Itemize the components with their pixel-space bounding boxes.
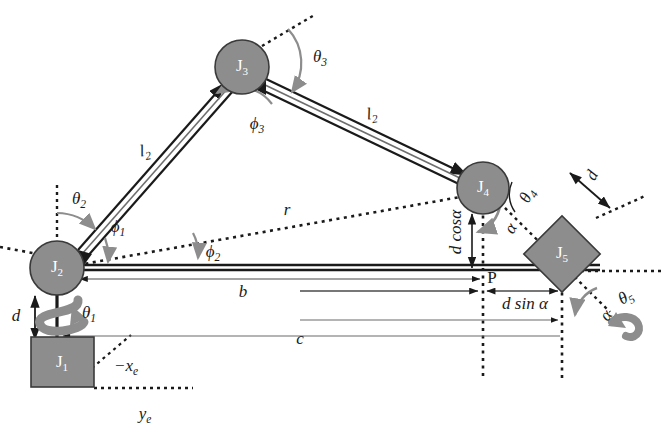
link-j3-j4-edge-c (260, 89, 461, 185)
label-theta4: θ4 (515, 184, 540, 206)
label-theta3: θ3 (313, 47, 327, 68)
label-r: r (284, 200, 291, 219)
link-j2-j3 (78, 83, 233, 265)
arc-phi1 (105, 238, 108, 262)
link-j3-j4 (255, 79, 467, 185)
label-phi1: ϕ1 (111, 217, 126, 238)
label-theta5: θ5 (614, 285, 637, 310)
label-theta2: θ2 (72, 189, 86, 210)
label-d-right: d (581, 167, 602, 184)
joint-j5[interactable]: J5 (524, 216, 600, 292)
joint-j4[interactable]: J4 (457, 162, 509, 214)
arc-alpha-j5 (575, 288, 597, 315)
diagram-canvas: J1 J2 J3 J4 J5 (0, 0, 667, 433)
label-b: b (239, 282, 248, 301)
dotted-radius-r (78, 196, 466, 265)
label-theta1: θ1 (82, 303, 96, 324)
label-phi3: ϕ3 (250, 114, 265, 135)
label-d-sin-alpha: d sin α (502, 294, 549, 313)
label-alpha-j4: α (500, 219, 521, 237)
link-j2-j3-edge-a (78, 83, 225, 250)
arc-phi2 (193, 233, 198, 258)
kinematic-chain-figure: J1 J2 J3 J4 J5 (0, 0, 667, 433)
arc-theta2 (57, 213, 95, 229)
link-j3-j4-edge-b (263, 84, 464, 180)
link-j2-j3-edge-b (82, 87, 229, 254)
label-phi2: ϕ2 (206, 242, 221, 263)
dotted-j5-upper (596, 196, 645, 218)
label-l2-upper: l2 (365, 103, 379, 125)
arc-theta3 (288, 29, 301, 92)
horizontal-beam (57, 265, 600, 270)
label-ye: ye (137, 404, 152, 425)
point-p-label: P (487, 268, 496, 287)
label-d-left: d (12, 306, 21, 325)
label-d-cos-alpha: d cosα (446, 209, 465, 254)
label-l2-lower: l2 (138, 140, 152, 162)
joint-j3[interactable]: J3 (215, 40, 269, 94)
link-j2-j3-edge-c (86, 91, 233, 258)
link-j3-j4-edge-a (266, 79, 467, 175)
joint-j2[interactable]: J2 (30, 241, 84, 295)
construction-lines (0, 14, 662, 388)
label-minus-xe: −xe (114, 356, 138, 377)
label-c: c (296, 329, 304, 348)
joint-j1[interactable]: J1 (31, 337, 94, 387)
